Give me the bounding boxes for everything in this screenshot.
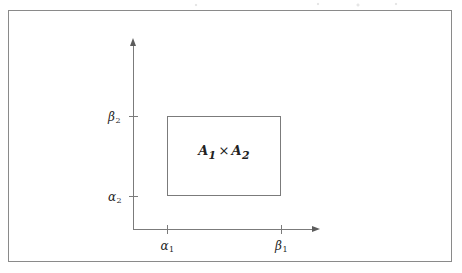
x-axis-label-beta1: β1 [261, 239, 301, 253]
times-symbol: × [216, 143, 231, 158]
vertical-axis-line [133, 44, 134, 230]
horizontal-axis-line [133, 229, 316, 230]
product-rectangle-label: A1×A2 [167, 143, 281, 162]
y-axis-label-beta2-base: β [108, 110, 115, 124]
scan-artifact [190, 2, 430, 8]
y-axis-label-alpha2-sub: 2 [117, 196, 122, 205]
page-border-frame: A1×A2 β2 α2 α1 β1 [8, 10, 452, 262]
rect-label-A1: A1 [198, 143, 216, 158]
y-tick-beta2 [129, 116, 138, 117]
x-axis-label-alpha1-base: α [160, 239, 168, 253]
y-tick-alpha2 [129, 196, 138, 197]
x-tick-beta1 [281, 225, 282, 234]
y-axis-label-beta2: β2 [108, 110, 120, 124]
x-axis-label-alpha1-sub: 1 [169, 245, 174, 254]
y-axis-label-alpha2-base: α [108, 190, 116, 204]
horizontal-axis-arrow-icon [312, 226, 320, 232]
x-axis-label-alpha1: α1 [147, 239, 187, 253]
y-axis-label-alpha2: α2 [108, 190, 121, 204]
x-axis-label-beta1-base: β [275, 239, 282, 253]
rect-label-A2-base: A [232, 143, 242, 158]
rect-label-A2: A2 [232, 143, 250, 158]
rect-label-A2-sub: 2 [242, 149, 250, 162]
x-axis-label-beta1-sub: 1 [282, 245, 287, 254]
figure-root: A1×A2 β2 α2 α1 β1 [0, 0, 462, 273]
x-tick-alpha1 [167, 225, 168, 234]
rect-label-A1-base: A [198, 143, 208, 158]
y-axis-label-beta2-sub: 2 [115, 116, 120, 125]
vertical-axis-arrow-icon [130, 38, 136, 46]
